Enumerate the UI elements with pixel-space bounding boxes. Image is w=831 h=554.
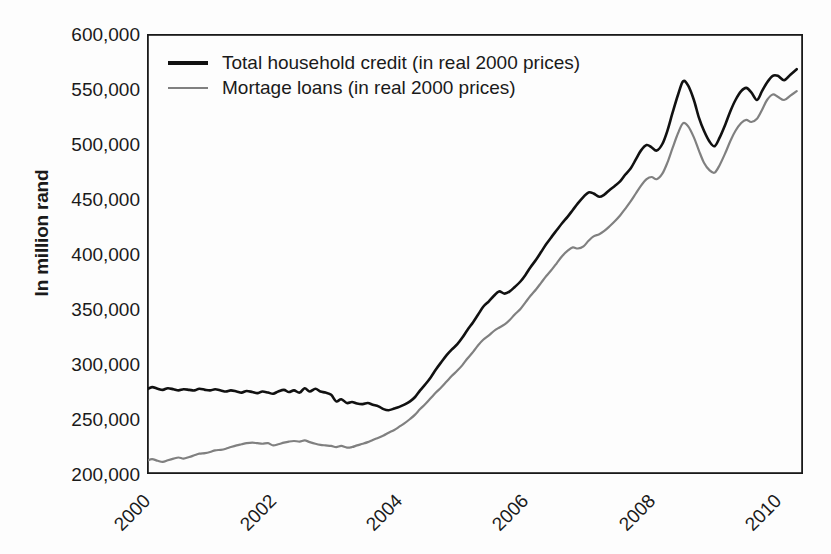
line-chart-svg xyxy=(147,34,803,474)
series-line-mortgage-loans xyxy=(147,91,797,462)
legend-item-mortgage-loans: Mortage loans (in real 2000 prices) xyxy=(168,75,598,100)
x-tick-label: 2010 xyxy=(734,491,784,541)
legend-item-total-household-credit: Total household credit (in real 2000 pri… xyxy=(168,50,598,75)
legend-line-swatch-gray xyxy=(168,87,208,89)
legend-label-mortgage-loans: Mortage loans (in real 2000 prices) xyxy=(222,78,516,98)
plot-frame xyxy=(148,35,802,473)
x-tick-label: 2002 xyxy=(230,491,280,541)
x-tick-label: 2000 xyxy=(104,491,154,541)
x-tick-label: 2004 xyxy=(356,491,406,541)
legend-line-swatch-black xyxy=(168,61,208,65)
legend-label-total-household-credit: Total household credit (in real 2000 pri… xyxy=(222,53,580,73)
series-line-total-household-credit xyxy=(147,69,797,410)
chart-legend: Total household credit (in real 2000 pri… xyxy=(168,50,598,100)
x-tick-label: 2008 xyxy=(608,491,658,541)
x-tick-label: 2006 xyxy=(482,491,532,541)
plot-area xyxy=(147,34,803,474)
chart-figure: In million rand 600,000550,000500,000450… xyxy=(0,0,831,554)
